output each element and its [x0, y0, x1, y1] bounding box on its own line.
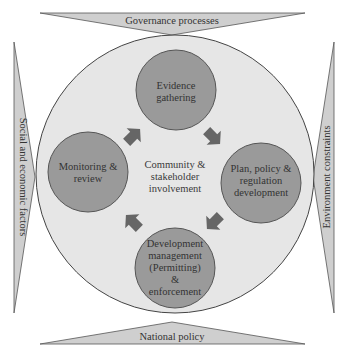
- node-evidence-line-1: Evidence: [156, 80, 195, 91]
- node-plan-policy: Plan, policy & regulation development: [221, 143, 301, 223]
- planning-cycle-diagram: Governance processes National policy Soc…: [0, 0, 345, 356]
- center-label: Community & stakeholder involvement: [145, 159, 206, 194]
- center-line-3: involvement: [149, 183, 202, 194]
- node-evidence-line-2: gathering: [156, 92, 196, 103]
- node-development-management: Development management (Permitting) & en…: [135, 228, 215, 308]
- center-line-1: Community &: [145, 159, 206, 170]
- band-bottom-label: National policy: [139, 331, 205, 342]
- center-line-2: stakeholder: [151, 171, 200, 182]
- band-top-label: Governance processes: [125, 15, 219, 26]
- node-development-line-1: Development: [147, 238, 204, 249]
- node-development-line-4: &: [171, 274, 179, 285]
- node-monitoring-review: Monitoring & review: [48, 132, 128, 212]
- band-right-label: Environment constraints: [321, 126, 332, 229]
- band-right: Environment constraints: [313, 42, 334, 313]
- node-development-line-2: management: [148, 250, 202, 261]
- node-plan-line-1: Plan, policy &: [231, 163, 292, 174]
- band-left-label: Social and economic factors: [18, 118, 29, 237]
- node-development-line-3: (Permitting): [149, 262, 201, 274]
- node-monitoring-line-1: Monitoring &: [59, 161, 118, 172]
- node-development-line-5: enforcement: [149, 286, 202, 297]
- node-evidence-gathering: Evidence gathering: [136, 50, 216, 130]
- node-monitoring-circle: [48, 132, 128, 212]
- node-plan-line-2: regulation: [240, 175, 283, 186]
- node-plan-line-3: development: [234, 187, 288, 198]
- band-top: Governance processes: [40, 13, 305, 35]
- node-monitoring-line-2: review: [74, 173, 103, 184]
- band-left: Social and economic factors: [14, 42, 35, 313]
- band-bottom: National policy: [40, 322, 305, 344]
